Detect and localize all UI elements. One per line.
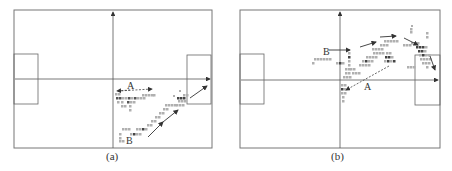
arrow-b-3	[380, 36, 396, 37]
left-goal-box	[240, 54, 264, 104]
caption-b: (b)	[331, 150, 344, 162]
arrow-b-5	[430, 56, 435, 70]
panel-b: B A	[240, 10, 440, 148]
arrow-b-2	[360, 42, 376, 47]
trajectory-a-markers	[341, 68, 352, 103]
label-b: B	[126, 135, 133, 146]
arrow-b-3	[190, 86, 207, 98]
trajectory-a-markers	[115, 93, 156, 112]
right-goal-box	[187, 55, 211, 104]
label-a: A	[364, 81, 372, 92]
label-a: A	[127, 80, 135, 91]
figure-canvas: A B	[0, 0, 452, 171]
arrow-b-2	[163, 110, 178, 122]
panel-a: A B	[14, 10, 212, 148]
goal-area-markers	[403, 25, 432, 69]
label-b: B	[323, 46, 330, 57]
arrow-a	[118, 89, 152, 91]
caption-a: (a)	[106, 150, 118, 162]
